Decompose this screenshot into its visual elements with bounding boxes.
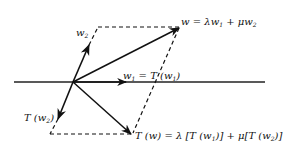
vector-w2 [73, 45, 89, 82]
label-Tw2: T (w2) [24, 112, 54, 124]
vector-Tw [73, 82, 131, 134]
label-w1: w1 = T (w1) [123, 70, 180, 82]
label-Tw: T (w) = λ [T (w1)] + μ[T (w2)] [135, 130, 282, 142]
label-w: w = λw1 + μw2 [181, 16, 257, 28]
label-w2: w2 [76, 27, 89, 39]
lower-parallelogram [50, 119, 131, 134]
vector-Tw2 [58, 82, 73, 119]
vector-diagram: w2 w = λw1 + μw2 w1 = T (w1) T (w2) T (w… [0, 0, 283, 155]
